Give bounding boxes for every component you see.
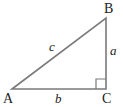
side-label-b: b xyxy=(55,92,62,105)
vertex-label-a: A xyxy=(3,92,13,106)
vertex-label-b: B xyxy=(104,2,113,16)
right-angle-marker xyxy=(96,79,106,89)
vertex-label-c: C xyxy=(102,92,111,106)
side-label-c: c xyxy=(49,40,55,53)
side-label-a: a xyxy=(110,44,117,57)
triangle-outline xyxy=(12,18,106,89)
